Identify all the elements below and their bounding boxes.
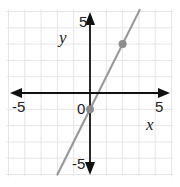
data-point [86,105,94,113]
x-tick-neg5: -5 [12,98,25,115]
x-axis-right-arrow-icon [158,88,170,98]
y-tick-5: 5 [79,13,87,30]
y-tick-neg5: -5 [72,155,85,172]
origin-label: 0 [77,100,85,117]
y-axis-down-arrow-icon [85,162,95,175]
y-axis-label: y [57,28,67,47]
coordinate-plane: -5 5 0 5 -5 y x [0,0,180,187]
x-tick-5: 5 [155,98,163,115]
x-axis-left-arrow-icon [10,88,22,98]
data-point [119,40,127,48]
x-axis-label: x [145,115,154,134]
